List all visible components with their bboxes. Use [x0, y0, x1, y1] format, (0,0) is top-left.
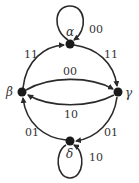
node-delta [66, 137, 75, 146]
edge-label-delta-delta: 10 [89, 151, 103, 164]
node-beta [18, 88, 27, 97]
node-gamma [114, 88, 123, 97]
node-label-gamma: γ [125, 86, 133, 100]
edge-gamma-beta [28, 95, 114, 105]
state-diagram: α β γ δ 00 11 11 00 10 01 01 10 [0, 0, 139, 183]
edge-label-delta-beta: 01 [25, 126, 39, 139]
edge-label-gamma-delta: 01 [104, 126, 118, 139]
edge-label-beta-gamma: 00 [63, 65, 77, 78]
edge-label-beta-alpha: 11 [24, 48, 38, 61]
edge-label-alpha-alpha: 00 [89, 23, 103, 36]
node-alpha [66, 40, 75, 49]
node-label-alpha: α [66, 25, 74, 39]
edge-label-alpha-gamma: 11 [104, 48, 118, 61]
node-label-delta: δ [66, 147, 73, 161]
edge-label-gamma-beta: 10 [64, 108, 78, 121]
node-label-beta: β [5, 85, 13, 99]
edge-beta-gamma [26, 79, 113, 90]
